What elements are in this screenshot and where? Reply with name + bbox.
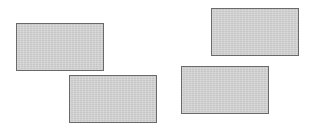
rectangle-bottom-right <box>181 66 269 114</box>
rectangle-top-left <box>16 23 104 71</box>
rectangle-bottom-left <box>69 75 157 123</box>
rectangle-top-right <box>211 8 299 56</box>
diagram-canvas <box>0 0 312 128</box>
